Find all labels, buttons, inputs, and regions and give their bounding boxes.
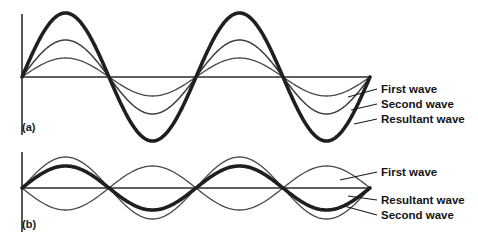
- panel-a-tag: (a): [22, 121, 36, 133]
- interference-figure: (a) First wave Second wave Resultant wav…: [0, 0, 478, 248]
- panel-a-label-second-wave: Second wave: [381, 98, 454, 110]
- panel-b-label-second-wave: Second wave: [381, 209, 454, 221]
- panel-b: (b) First wave Resultant wave Second wav…: [22, 152, 465, 232]
- panel-a: (a) First wave Second wave Resultant wav…: [22, 13, 465, 141]
- panel-a-label-resultant-wave: Resultant wave: [381, 113, 465, 125]
- panel-b-leader-second: [344, 206, 377, 215]
- panel-b-tag: (b): [22, 218, 36, 230]
- panel-a-leader-resultant: [354, 119, 377, 124]
- panel-b-label-first-wave: First wave: [381, 166, 437, 178]
- wave-diagram-canvas: (a) First wave Second wave Resultant wav…: [0, 0, 478, 248]
- panel-b-label-resultant-wave: Resultant wave: [381, 194, 465, 206]
- panel-a-label-first-wave: First wave: [381, 83, 437, 95]
